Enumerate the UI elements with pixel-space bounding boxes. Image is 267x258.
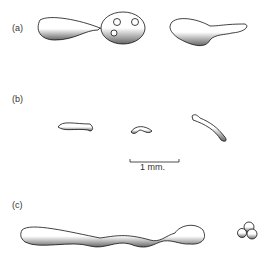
droplet-c1: [21, 225, 205, 247]
droplet-a1: [38, 18, 100, 40]
droplet-b2: [131, 127, 152, 134]
droplet-b3: [192, 115, 226, 141]
scale-bar: [130, 159, 179, 162]
droplet-b1: [58, 123, 93, 131]
figure-drawing: [0, 0, 267, 258]
droplet-a2: [101, 12, 145, 44]
droplet-a3: [170, 19, 247, 46]
